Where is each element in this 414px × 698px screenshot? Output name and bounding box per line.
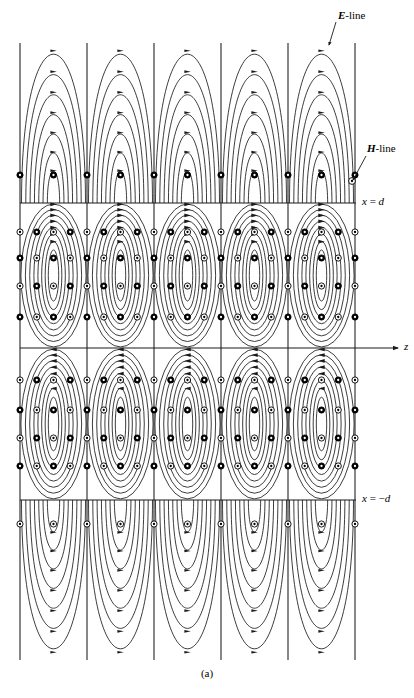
h-marker-out-of-page <box>101 314 107 320</box>
h-marker-out-of-page <box>235 255 241 261</box>
h-marker-into-page <box>151 407 157 413</box>
h-marker-into-page <box>117 407 123 413</box>
label-x-equals-minus-d: x = −d <box>362 493 390 504</box>
h-marker-out-of-page <box>218 229 224 235</box>
e-field-arch-upper <box>168 115 206 203</box>
e-line-arrowhead <box>50 630 56 633</box>
e-field-loop-lower <box>316 397 326 451</box>
figure-caption: (a) <box>0 668 414 679</box>
field-line-diagram <box>0 0 414 698</box>
h-marker-out-of-page <box>218 435 224 441</box>
h-marker-into-page <box>352 314 358 320</box>
e-line-arrowhead <box>251 609 257 612</box>
e-field-loop-lower <box>246 388 263 460</box>
h-marker-into-page <box>302 283 308 289</box>
h-marker-out-of-page <box>17 521 23 527</box>
e-field-arch-lower <box>235 500 273 588</box>
e-line-arrowhead <box>50 359 57 363</box>
e-field-loop-upper <box>45 241 62 309</box>
label-e-line: E-line <box>338 10 366 21</box>
e-line-arrowhead <box>251 214 257 218</box>
e-field-loop-upper <box>246 241 263 309</box>
h-marker-into-page <box>168 229 174 235</box>
h-marker-into-page <box>268 435 274 441</box>
e-line-arrowhead <box>251 111 257 114</box>
h-marker-into-page <box>50 463 56 469</box>
h-marker-out-of-page <box>168 463 174 469</box>
h-marker-out-of-page <box>335 463 341 469</box>
e-field-arch-lower <box>298 500 345 608</box>
h-marker-into-page <box>101 283 107 289</box>
h-marker-into-page <box>268 229 274 235</box>
e-field-loop-upper <box>88 204 153 347</box>
h-marker-out-of-page <box>117 229 123 235</box>
h-marker-out-of-page <box>151 377 157 383</box>
e-line-arrowhead <box>184 91 190 94</box>
e-line-arrowhead <box>50 353 57 357</box>
h-marker-into-page <box>352 407 358 413</box>
h-marker-into-page <box>318 172 324 178</box>
h-marker-out-of-page <box>349 178 356 185</box>
h-marker-into-page <box>184 407 190 413</box>
h-marker-into-page <box>34 435 40 441</box>
h-marker-into-page <box>218 407 224 413</box>
e-line-arrowhead <box>50 49 56 52</box>
h-marker-into-page <box>218 172 224 178</box>
h-marker-into-page <box>352 463 358 469</box>
e-line-arrowhead <box>50 111 56 114</box>
e-line-arrowhead <box>117 531 123 534</box>
h-marker-into-page <box>50 407 56 413</box>
h-marker-out-of-page <box>335 255 341 261</box>
h-marker-into-page <box>134 229 140 235</box>
e-field-loop-lower <box>222 349 287 499</box>
h-marker-out-of-page <box>352 377 358 383</box>
e-field-arch-upper <box>231 95 278 203</box>
h-marker-out-of-page <box>101 407 107 413</box>
h-marker-out-of-page <box>285 435 291 441</box>
h-marker-into-page <box>318 463 324 469</box>
h-marker-into-page <box>184 255 190 261</box>
e-line-arrowhead <box>50 609 56 612</box>
h-marker-into-page <box>34 283 40 289</box>
h-marker-out-of-page <box>235 314 241 320</box>
e-field-arch-upper <box>164 95 211 203</box>
e-field-arch-lower <box>231 500 278 608</box>
h-marker-into-page <box>285 463 291 469</box>
h-marker-out-of-page <box>285 283 291 289</box>
e-line-arrowhead <box>184 219 191 223</box>
h-marker-out-of-page <box>151 283 157 289</box>
h-marker-out-of-page <box>285 229 291 235</box>
h-marker-into-page <box>335 435 341 441</box>
e-line-arrowhead <box>117 569 123 572</box>
h-marker-into-page <box>302 435 308 441</box>
h-marker-into-page <box>117 463 123 469</box>
e-line-arrowhead <box>50 365 57 369</box>
e-field-arch-upper <box>30 95 77 203</box>
h-marker-into-page <box>151 172 157 178</box>
e-field-arch-upper <box>223 54 287 203</box>
e-line-arrowhead <box>318 131 324 134</box>
h-marker-into-page <box>50 255 56 261</box>
h-marker-out-of-page <box>134 463 140 469</box>
e-line-arrowhead <box>184 359 191 363</box>
h-marker-into-page <box>117 172 123 178</box>
e-field-arch-upper <box>290 54 354 203</box>
h-marker-out-of-page <box>134 255 140 261</box>
e-line-arrowhead <box>50 531 56 534</box>
h-marker-out-of-page <box>50 229 56 235</box>
h-marker-into-page <box>168 377 174 383</box>
e-line-arrowhead <box>184 131 190 134</box>
e-line-arrowhead <box>117 70 123 73</box>
h-marker-out-of-page <box>84 229 90 235</box>
e-line-arrowhead <box>184 372 191 376</box>
h-marker-into-page <box>151 255 157 261</box>
h-marker-into-page <box>268 377 274 383</box>
h-marker-into-page <box>201 435 207 441</box>
h-marker-out-of-page <box>184 435 190 441</box>
e-line-arrowhead <box>251 630 257 633</box>
h-marker-out-of-page <box>117 435 123 441</box>
h-marker-out-of-page <box>251 521 257 527</box>
e-field-loop-upper <box>313 241 330 309</box>
h-marker-out-of-page <box>251 435 257 441</box>
e-line-arrowhead <box>251 365 258 369</box>
